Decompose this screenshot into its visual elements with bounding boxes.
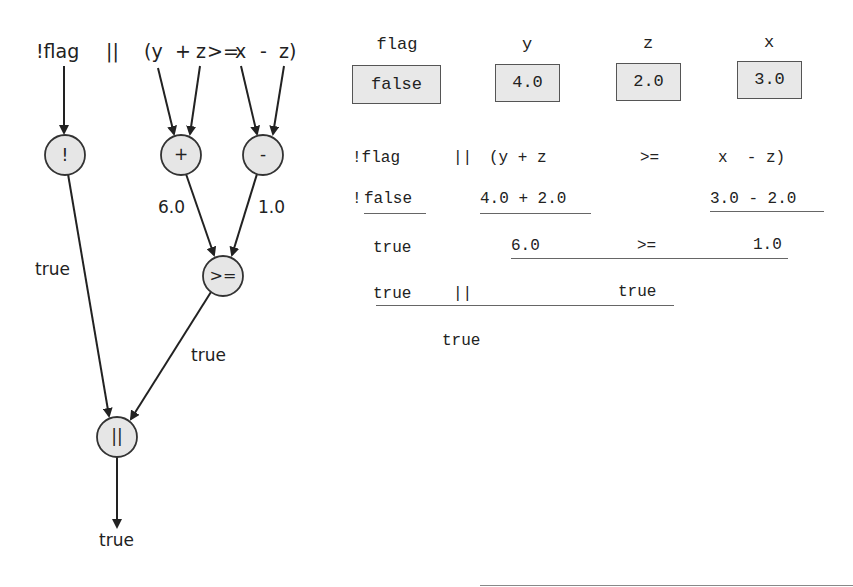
tree-edges [64,66,284,527]
step1-lhs: (y + z [489,149,547,167]
step5-result: true [442,332,480,350]
edge-label-not-out: true [35,259,70,279]
step2-sum: 4.0 + 2.0 [480,190,566,208]
edge-plus-to-gte [186,174,214,255]
step2-sum-underline [480,213,591,214]
edge-label-minus-out: 1.0 [258,197,285,217]
var-value-flag: false [371,75,422,94]
var-name-flag: flag [347,35,447,54]
token-open-y: (y [144,40,163,62]
step4-or: || [453,285,472,303]
step3-underline [511,258,788,259]
step3-sum-value: 6.0 [511,237,540,255]
edge-minus-to-gte [232,174,257,255]
step1-or: || [453,149,472,167]
node-not-label: ! [45,145,85,165]
token-or: || [106,40,119,62]
token-not-flag: !flag [36,40,79,62]
step2-flag-value: false [364,190,412,208]
step1-rhs: x - z) [718,149,785,167]
var-name-x: x [719,33,819,52]
var-value-y: 4.0 [512,73,543,92]
edge-not-to-or [68,174,109,416]
edge-z-to-minus [273,66,284,134]
node-plus-label: + [161,144,201,164]
node-minus-label: - [243,144,283,164]
token-plus: + [175,40,191,62]
bottom-rule [480,585,853,586]
expression-tree-svg [0,0,340,587]
var-box-y: 4.0 [495,64,560,102]
step4-right: true [618,283,656,301]
step1-op: >= [640,149,659,167]
step3-left: true [373,239,411,257]
var-value-z: 2.0 [633,72,664,91]
node-gte-label: >= [203,266,243,285]
step2-diff-underline [710,211,824,212]
edge-label-gte-out: true [191,345,226,365]
var-value-x: 3.0 [754,70,785,89]
result-label: true [99,530,134,550]
step3-diff-value: 1.0 [753,236,782,254]
step2-diff: 3.0 - 2.0 [710,190,796,208]
step4-left: true [373,285,411,303]
edge-x-to-minus [241,66,257,134]
var-name-z: z [598,34,698,53]
token-z-close: z) [279,40,296,62]
token-minus: - [260,40,267,62]
node-or-label: || [97,426,137,446]
edge-z-to-plus [190,66,200,134]
step1-not-flag: !flag [352,149,400,167]
edge-y-to-plus [158,68,174,134]
edge-label-plus-out: 6.0 [158,197,185,217]
token-x: x [235,40,246,62]
var-box-flag: false [352,65,441,104]
step3-op: >= [637,237,656,255]
var-box-z: 2.0 [616,63,681,101]
var-name-y: y [477,35,577,54]
step2-not: ! [352,190,362,208]
expression-tree: !flag || (y + z >= x - z) ! + - >= || 6.… [0,0,340,587]
var-box-x: 3.0 [737,61,802,99]
token-z: z [196,40,206,62]
step2-flag-underline [364,213,426,214]
step4-underline [376,305,674,306]
